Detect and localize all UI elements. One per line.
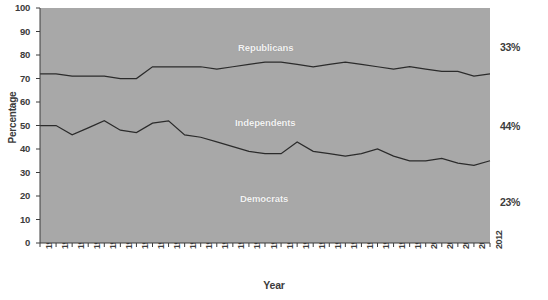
band-label-democrats: Democrats (240, 193, 288, 204)
band-label-independents: Independents (235, 117, 296, 128)
x-axis-tick-marks (40, 243, 490, 247)
y-axis-tick-marks (36, 8, 40, 243)
right-percentage-label: 33% (500, 41, 520, 53)
chart-container: Percentage 0102030405060708090100 195219… (0, 0, 548, 300)
right-percentage-label: 44% (500, 120, 520, 132)
right-percentage-label: 23% (500, 196, 520, 208)
band-label-republicans: Republicans (238, 42, 293, 53)
